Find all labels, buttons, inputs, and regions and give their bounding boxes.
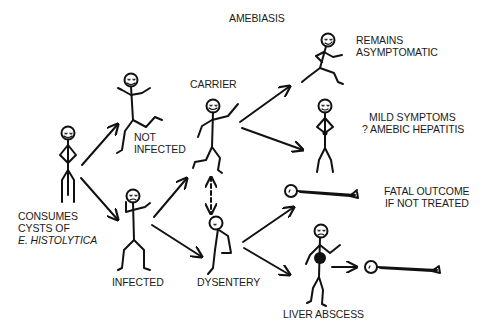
svg-text:CONSUMES: CONSUMES [18,210,78,222]
figure-carrier: CARRIER [190,78,238,173]
arrow-consumes-to-infected [81,178,118,220]
svg-text:FATAL OUTCOME: FATAL OUTCOME [384,185,470,197]
label-fatal-outcome: FATAL OUTCOME IF NOT TREATED [384,185,470,209]
svg-text:CYSTS OF: CYSTS OF [18,222,70,234]
label-infected: INFECTED [112,276,164,288]
liver-abscess-marker [314,252,326,264]
label-not-infected: NOT INFECTED [134,131,186,155]
svg-text:INFECTED: INFECTED [134,143,186,155]
arrow-carrier-to-mild-symptoms [242,128,303,150]
svg-text:MILD SYMPTOMS: MILD SYMPTOMS [369,111,456,123]
svg-text:REMAINS: REMAINS [356,34,403,46]
edges [81,86,357,275]
figure-consumes [60,127,76,203]
svg-text:NOT: NOT [134,131,157,143]
figure-mild-symptoms [317,100,333,173]
svg-text:ASYMPTOMATIC: ASYMPTOMATIC [356,46,438,58]
arrow-consumes-to-not-infected [82,124,118,165]
figure-fatal-outcome [285,185,358,198]
figure-dysentery [208,217,231,275]
label-consumes: CONSUMES CYSTS OF E. HISTOLYTICA [18,210,97,246]
label-carrier: CARRIER [190,78,237,90]
arrow-dysentery-to-liver-abscess [244,248,290,275]
arrow-dysentery-to-fatal-outcome [243,207,294,242]
label-mild-symptoms: MILD SYMPTOMS ? AMEBIC HEPATITIS [362,111,464,135]
label-liver-abscess: LIVER ABSCESS [283,308,364,320]
arrow-carrier-to-remains-asymptomatic [240,86,290,122]
figure-fatal-outcome-2 [365,261,440,273]
diagram-title: AMEBIASIS [229,12,285,24]
arrow-infected-to-carrier [154,178,187,217]
arrow-infected-to-dysentery [152,225,202,257]
svg-text:? AMEBIC HEPATITIS: ? AMEBIC HEPATITIS [362,123,464,135]
figure-liver-abscess [306,225,340,307]
svg-text:IF NOT TREATED: IF NOT TREATED [385,197,469,209]
amebiasis-diagram: AMEBIASIS CONSUMES CYSTS OF E. HISTOLYTI… [0,0,487,332]
svg-text:E. HISTOLYTICA: E. HISTOLYTICA [18,234,97,246]
label-dysentery: DYSENTERY [197,276,260,288]
label-remains-asymptomatic: REMAINS ASYMPTOMATIC [356,34,438,58]
figure-infected [118,190,150,271]
figure-remains-asymptomatic [302,34,343,85]
